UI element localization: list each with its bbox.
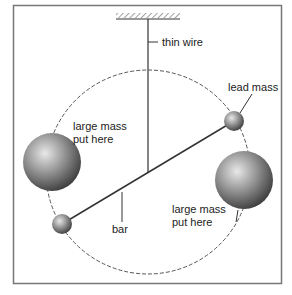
large-mass-right-label-line2: put here xyxy=(172,216,226,229)
large-mass-right-label-line1: large mass xyxy=(172,203,226,216)
bar-label: bar xyxy=(112,223,128,236)
large-mass-right-label: large mass put here xyxy=(172,203,226,229)
lead-mass-leader xyxy=(240,94,252,113)
lead-mass-right xyxy=(224,111,244,131)
lead-mass-label: lead mass xyxy=(228,81,278,94)
torsion-balance-diagram xyxy=(0,0,292,295)
ceiling-hatch xyxy=(116,13,180,18)
large-mass-left-label: large mass put here xyxy=(73,120,127,146)
large-mass-right xyxy=(215,151,273,209)
wire-label: thin wire xyxy=(162,36,203,49)
large-mass-left-label-line2: put here xyxy=(73,133,127,146)
large-mass-left-label-line1: large mass xyxy=(73,120,127,133)
lead-mass-left xyxy=(52,214,72,234)
